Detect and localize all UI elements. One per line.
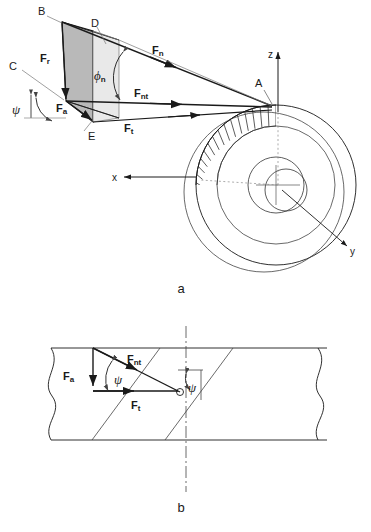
tooth-line-left bbox=[92, 348, 160, 440]
phi-n-subscript: n bbox=[101, 75, 106, 84]
force-prism bbox=[62, 22, 119, 122]
point-e-label: E bbox=[88, 130, 95, 142]
leader-b bbox=[47, 16, 62, 23]
gear-front-face-circle bbox=[184, 112, 344, 272]
strip-break-left bbox=[48, 348, 55, 440]
force-fnt-arrowhead bbox=[150, 103, 182, 104]
force-fa-label: Fa bbox=[56, 102, 68, 116]
y-axis-arrow bbox=[282, 190, 347, 246]
strip-break-right bbox=[316, 348, 323, 440]
force-fnt-label-b: Fnt bbox=[127, 353, 142, 367]
force-fn-arrowhead bbox=[150, 57, 176, 68]
psi-left-arc-b bbox=[106, 361, 112, 391]
figure-root: z x y A bbox=[0, 0, 371, 532]
helical-gear-force-diagram: z x y A bbox=[0, 0, 371, 532]
force-fnt-label: Fnt bbox=[134, 87, 149, 101]
point-b-label: B bbox=[38, 5, 45, 17]
leader-c bbox=[22, 70, 64, 100]
force-fn-label: Fn bbox=[152, 44, 164, 58]
psi-right-label-b: ψ bbox=[188, 380, 197, 395]
point-d-label: D bbox=[91, 17, 99, 29]
force-fa-label-b: Fa bbox=[63, 370, 75, 384]
caption-b: b bbox=[177, 500, 184, 515]
gear-root-arc bbox=[217, 126, 276, 185]
gear-wheel bbox=[184, 105, 356, 272]
psi-label-panel-a: ψ bbox=[12, 102, 21, 117]
psi-left-label-b: ψ bbox=[114, 372, 123, 387]
y-axis-label: y bbox=[350, 246, 355, 257]
panel-b: ψ ψ Fa Fnt Ft b bbox=[48, 326, 327, 515]
psi-arc-panel-a bbox=[36, 98, 52, 121]
point-c-label: C bbox=[9, 60, 17, 72]
force-fr-label: Fr bbox=[40, 52, 50, 66]
caption-a: a bbox=[177, 281, 185, 296]
z-axis-label: z bbox=[268, 49, 273, 60]
tooth-line-right bbox=[165, 348, 233, 440]
panel-a: z x y A bbox=[9, 5, 356, 296]
x-axis-label: x bbox=[112, 172, 117, 183]
force-ft-label: Ft bbox=[124, 122, 134, 136]
force-ft-arrowhead bbox=[168, 115, 200, 117]
force-ft-label-b: Ft bbox=[131, 399, 141, 413]
tooth-helix-lines bbox=[92, 348, 233, 440]
angle-psi-left-b: ψ bbox=[106, 361, 123, 391]
point-a-label: A bbox=[255, 77, 263, 89]
gear-bore-circle bbox=[265, 169, 307, 211]
